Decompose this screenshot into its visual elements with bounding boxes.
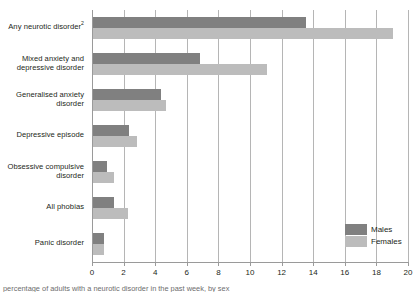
category-label: All phobias	[0, 202, 84, 211]
category-label: Any neurotic disorder2	[0, 22, 84, 31]
x-tick-label: 12	[270, 268, 294, 277]
bar-females	[93, 64, 267, 75]
x-tick	[250, 262, 251, 266]
x-tick-label: 20	[396, 268, 415, 277]
category-label: Generalised anxietydisorder	[0, 90, 84, 109]
category-label: Mixed anxiety anddepressive disorder	[0, 54, 84, 73]
bar-females	[93, 172, 114, 183]
category-label: Panic disorder	[0, 238, 84, 247]
bar-females	[93, 100, 166, 111]
bar-females	[93, 28, 393, 39]
x-tick	[124, 262, 125, 266]
legend-label: Males	[371, 225, 392, 234]
x-tick-label: 18	[364, 268, 388, 277]
legend-item: Males	[345, 223, 411, 235]
gridline	[155, 10, 156, 262]
x-tick	[218, 262, 219, 266]
bar-males	[93, 89, 161, 100]
legend-label: Females	[371, 237, 402, 246]
caption-strip: percentage of adults with a neurotic dis…	[0, 286, 415, 292]
x-tick-label: 14	[301, 268, 325, 277]
gridline	[218, 10, 219, 262]
bar-males	[93, 17, 306, 28]
x-tick	[282, 262, 283, 266]
gridline	[187, 10, 188, 262]
x-tick	[408, 262, 409, 266]
bar-males	[93, 125, 129, 136]
bar-males	[93, 197, 114, 208]
label-footnote-marker: 2	[81, 21, 84, 27]
bar-males	[93, 53, 200, 64]
caption-text: percentage of adults with a neurotic dis…	[3, 286, 229, 292]
category-label: Depressive episode	[0, 130, 84, 139]
bar-females	[93, 208, 128, 219]
category-labels-column: Any neurotic disorder2Mixed anxiety andd…	[0, 10, 84, 262]
legend-swatch-males	[345, 224, 367, 235]
x-tick	[187, 262, 188, 266]
gridline	[313, 10, 314, 262]
x-tick	[92, 262, 93, 266]
chart-legend: MalesFemales	[345, 223, 411, 248]
x-tick	[345, 262, 346, 266]
x-tick-label: 0	[80, 268, 104, 277]
x-tick-label: 8	[206, 268, 230, 277]
x-tick-label: 4	[143, 268, 167, 277]
x-tick-label: 10	[238, 268, 262, 277]
x-tick	[155, 262, 156, 266]
legend-item: Females	[345, 235, 411, 247]
x-tick-label: 16	[333, 268, 357, 277]
gridline	[250, 10, 251, 262]
bar-males	[93, 161, 107, 172]
neurotic-disorder-bar-chart: Any neurotic disorder2Mixed anxiety andd…	[0, 0, 415, 292]
bar-females	[93, 136, 137, 147]
x-tick	[376, 262, 377, 266]
legend-swatch-females	[345, 236, 367, 247]
x-tick	[313, 262, 314, 266]
category-label: Obsessive compulsivedisorder	[0, 162, 84, 181]
gridline	[282, 10, 283, 262]
x-tick-label: 2	[112, 268, 136, 277]
bar-males	[93, 233, 104, 244]
x-tick-label: 6	[175, 268, 199, 277]
bar-females	[93, 244, 104, 255]
